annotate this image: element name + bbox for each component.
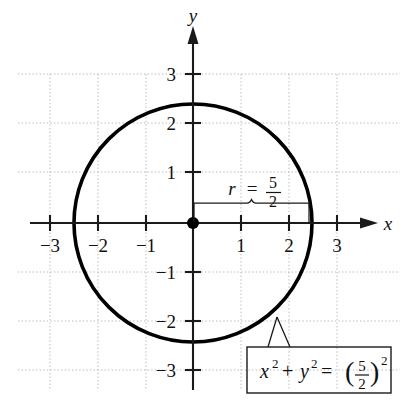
equation-fraction-denominator: 2 (358, 376, 366, 392)
radius-variable: r (228, 178, 236, 199)
equation-plus: + (282, 360, 293, 382)
x-tick-label--3: −3 (40, 235, 60, 256)
equation-fraction-numerator: 5 (358, 358, 366, 374)
equation-x-term: x (259, 360, 269, 382)
circle-graph-figure: −3 −2 −1 1 2 3 3 2 1 −1 −2 −3 x y r = 5 … (0, 0, 414, 403)
equation-outer-exponent: 2 (381, 353, 388, 368)
x-axis-label: x (383, 213, 393, 234)
x-tick-label-1: 1 (236, 235, 246, 256)
equation-x-exponent: 2 (272, 356, 279, 371)
radius-brace (194, 200, 309, 223)
y-tick-label--1: −1 (156, 262, 176, 283)
x-tick-label-3: 3 (332, 235, 342, 256)
origin-dot (187, 217, 199, 229)
x-tick-label-2: 2 (284, 235, 294, 256)
radius-denominator: 2 (269, 193, 277, 210)
y-axis-arrowhead (188, 26, 199, 44)
equation-paren-close: ) (370, 356, 379, 387)
radius-equals: = (247, 178, 258, 199)
x-axis-arrowhead (360, 218, 378, 229)
y-tick-label--3: −3 (156, 360, 176, 381)
x-tick-label--1: −1 (136, 235, 156, 256)
radius-numerator: 5 (269, 174, 277, 191)
equation-y-exponent: 2 (311, 356, 318, 371)
y-axis-label: y (187, 5, 198, 26)
equation-equals: = (321, 360, 332, 382)
axes-group (30, 35, 368, 390)
equation-y-term: y (298, 360, 309, 383)
radius-label: r = 5 2 (228, 174, 281, 210)
y-tick-label-1: 1 (167, 162, 177, 183)
graph-canvas: −3 −2 −1 1 2 3 3 2 1 −1 −2 −3 x y r = 5 … (0, 0, 414, 403)
equation-paren-open: ( (345, 356, 354, 387)
x-tick-label--2: −2 (88, 235, 108, 256)
y-tick-label-3: 3 (167, 64, 177, 85)
y-tick-label-2: 2 (167, 113, 177, 134)
y-tick-label--2: −2 (156, 311, 176, 332)
